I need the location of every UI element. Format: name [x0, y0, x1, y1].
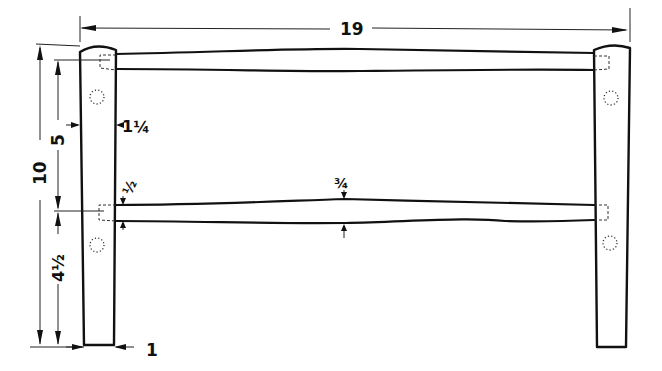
arrow-right-icon [71, 122, 80, 128]
width-dimension: 19 [80, 8, 630, 42]
frame-technical-drawing: 19 [0, 0, 662, 371]
arrow-right-icon [612, 27, 628, 33]
dowel-hole-icon [604, 91, 618, 105]
height-lower-label: 4½ [49, 254, 68, 282]
height-total-label: 10 [30, 161, 50, 185]
arrow-down-icon [37, 330, 43, 345]
width-label: 19 [340, 19, 364, 39]
left-leg [80, 46, 116, 345]
dowel-hole-icon [90, 238, 104, 252]
leg-top-width-label: 1¼ [122, 117, 150, 136]
leg-top-width-dimension: 1¼ [66, 117, 150, 136]
arrow-up-icon [37, 45, 43, 60]
lower-rail [116, 199, 594, 223]
arrow-up-icon [55, 212, 61, 226]
arrow-up-icon [341, 224, 347, 231]
arrow-down-icon [55, 196, 61, 210]
rail-end-thickness-label: ½ [119, 177, 140, 197]
height-dimensions: 10 5 4½ [30, 44, 110, 347]
arrow-left-icon [114, 344, 126, 350]
leg-bottom-width-dimension: 1 [66, 340, 158, 360]
dowel-hole-icon [90, 90, 104, 104]
arrow-up-icon [55, 60, 61, 75]
top-rail [116, 49, 594, 71]
right-leg [594, 45, 630, 347]
arrow-down-icon [55, 331, 61, 345]
leg-bottom-width-label: 1 [146, 340, 158, 360]
arrow-left-icon [80, 25, 96, 31]
rail-mid-thickness-label: ¾ [334, 175, 349, 191]
arrow-right-icon [72, 344, 84, 350]
rail-mid-thickness-dimension: ¾ [334, 175, 349, 238]
height-upper-label: 5 [48, 134, 68, 146]
dowel-hole-icon [603, 236, 617, 250]
